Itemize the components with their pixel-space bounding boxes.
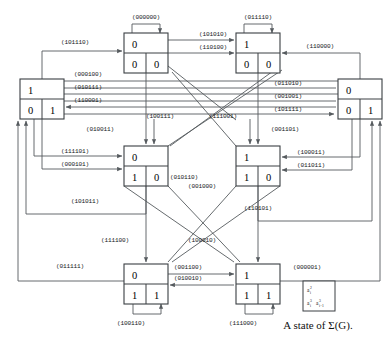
node-bottom-right[interactable]: 1 1 1 [236, 264, 280, 304]
node-mid-right-top: 1 [244, 152, 249, 163]
node-top-left-bottom-right: 0 [154, 59, 159, 70]
node-top-right-bottom-left: 0 [244, 59, 249, 70]
edge-110000 [282, 53, 360, 79]
node-bottom-left-bottom-left: 1 [132, 290, 137, 301]
edge-label-111101: (111101) [61, 148, 89, 155]
edge-self-bottom-right [245, 304, 273, 314]
edge-label-100111: (100111) [146, 113, 174, 120]
node-right-bottom-left: 0 [346, 105, 351, 116]
node-top-left-bottom-left: 0 [132, 59, 137, 70]
node-bottom-right-bottom-left: 1 [244, 290, 249, 301]
node-mid-left[interactable]: 0 1 0 [124, 146, 168, 186]
node-mid-right-bottom-right: 0 [266, 172, 271, 183]
legend-line2b-sub: i−1 [319, 304, 324, 308]
edge-label-110001: (110001) [74, 97, 102, 104]
edge-label-011111: (011111) [56, 263, 84, 270]
node-mid-right-bottom-left: 1 [244, 172, 249, 183]
edge-label-100010: (100010) [188, 237, 216, 244]
node-bottom-left-bottom-right: 1 [154, 290, 159, 301]
edge-label-101111: (101111) [274, 106, 302, 113]
edge-000001 [280, 121, 380, 281]
edge-label-001001: (001001) [274, 93, 302, 100]
edge-label-010010: (010010) [174, 275, 202, 282]
figure-caption: A state of Σ(G). [283, 319, 353, 332]
node-top-right-top: 1 [244, 39, 249, 50]
node-mid-right[interactable]: 1 1 0 [236, 146, 280, 186]
node-left[interactable]: 1 0 1 [20, 79, 64, 119]
legend-line1-sub: i [310, 291, 311, 295]
edge-label-001100: (001100) [174, 264, 202, 271]
legend-line2b-sup: 3 [319, 299, 321, 303]
figure-state-of-sigma-g: 0 0 0 1 0 0 1 0 1 0 0 1 [0, 0, 384, 341]
node-mid-left-top: 0 [132, 152, 137, 163]
edge-self-top-right [244, 24, 272, 33]
edge-label-010011: (010011) [86, 126, 114, 133]
edge-label-101011: (101011) [71, 198, 99, 205]
edge-label-111100: (111100) [101, 237, 129, 244]
node-mid-left-bottom-left: 1 [132, 172, 137, 183]
edge-label-000001: (000001) [293, 264, 321, 271]
edge-label-000101: (000101) [61, 161, 89, 168]
edge-label-101110: (101110) [61, 39, 89, 46]
edge-label-010110: (010110) [170, 174, 198, 181]
node-top-right-bottom-right: 0 [266, 59, 271, 70]
node-right[interactable]: 0 0 1 [338, 79, 382, 119]
edge-label-001101: (001101) [271, 126, 299, 133]
legend-line2a-sup: 3 [310, 299, 312, 303]
edge-label-000000: (000000) [132, 14, 160, 21]
node-bottom-right-top: 1 [244, 270, 249, 281]
edge-label-011011: (011011) [297, 162, 325, 169]
edge-label-010111: (010111) [74, 84, 102, 91]
node-mid-left-bottom-right: 0 [154, 172, 159, 183]
edge-cross-a [168, 66, 236, 120]
node-left-top: 1 [28, 85, 33, 96]
node-bottom-left-top: 0 [132, 270, 137, 281]
node-left-bottom-right: 1 [50, 105, 55, 116]
edge-label-000100: (000100) [74, 71, 102, 78]
node-left-bottom-left: 0 [28, 105, 33, 116]
edge-label-110101: (110101) [244, 205, 272, 212]
edge-cross-d [172, 72, 236, 146]
edge-label-100110: (100110) [117, 320, 145, 327]
edge-label-111001: (111001) [209, 113, 237, 120]
edge-label-110100: (110100) [199, 44, 227, 51]
node-top-left[interactable]: 0 0 0 [124, 33, 168, 73]
edge-label-100011: (100011) [297, 149, 325, 156]
edge-label-layer: (000000) (011110) (101010) (110100) (101… [56, 14, 334, 327]
node-bottom-left[interactable]: 0 1 1 [124, 264, 168, 304]
node-top-right[interactable]: 1 0 0 [236, 33, 280, 73]
legend-group: a 2 i a 3 i a 3 i−1 [303, 281, 335, 311]
edge-label-110000: (110000) [306, 43, 334, 50]
node-right-bottom-right: 1 [368, 105, 373, 116]
legend-line1-sup: 2 [310, 286, 312, 290]
edge-label-011010: (011010) [274, 80, 302, 87]
node-top-left-top: 0 [132, 39, 137, 50]
edge-self-top-left [132, 24, 160, 33]
edge-label-011110: (011110) [244, 14, 272, 21]
node-bottom-right-bottom-right: 1 [266, 290, 271, 301]
edge-label-111000: (111000) [229, 320, 257, 327]
legend-line2a-sub: i [310, 304, 311, 308]
edge-label-001000: (001000) [188, 183, 216, 190]
node-right-top: 0 [346, 85, 351, 96]
edge-label-101010: (101010) [199, 31, 227, 38]
edge-self-bottom-left [133, 304, 161, 314]
